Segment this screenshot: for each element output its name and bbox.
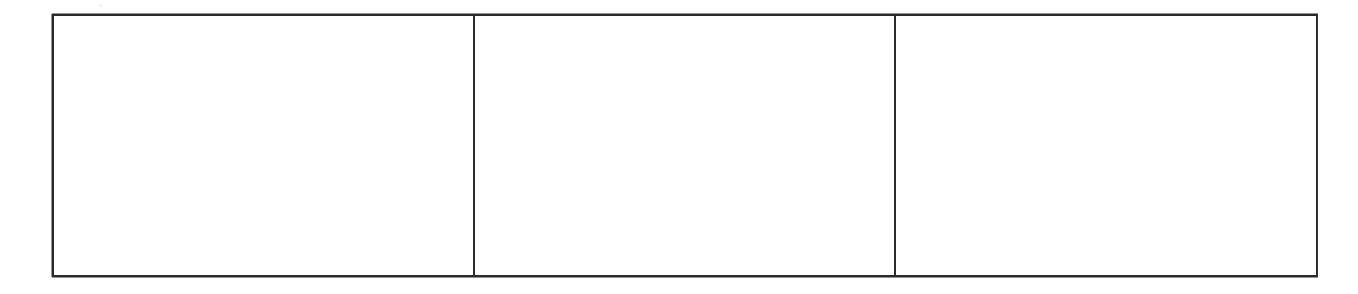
panel-right-content	[896, 16, 1316, 275]
panel-frame	[52, 14, 1318, 277]
panel-center-content	[475, 16, 894, 275]
frame-rule-bottom	[52, 277, 1318, 278]
figure-canvas	[0, 0, 1358, 294]
panel-right[interactable]	[894, 16, 1316, 275]
scan-speck	[99, 4, 102, 7]
panel-center[interactable]	[473, 16, 894, 275]
panel-left[interactable]	[54, 16, 473, 275]
panel-left-content	[54, 16, 473, 275]
